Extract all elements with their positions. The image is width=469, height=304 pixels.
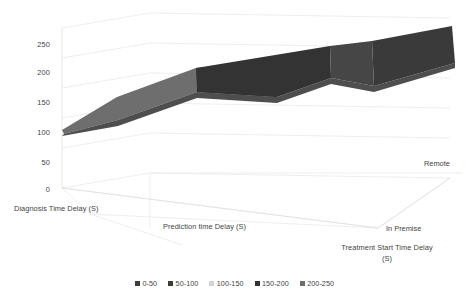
axis-title-diagnosis: Diagnosis Time Delay (S)	[14, 204, 99, 213]
legend-label: 200-250	[307, 279, 334, 288]
legend-swatch-icon	[300, 281, 305, 286]
legend-swatch-icon	[135, 281, 140, 286]
y-tick-150: 150	[22, 98, 50, 107]
legend-label: 50-100	[176, 279, 199, 288]
floor-gridlines	[62, 173, 462, 245]
y-tick-0: 0	[22, 185, 50, 194]
axis-title-treatment: Treatment Start Time Delay (S)	[327, 242, 447, 265]
y-tick-250: 250	[22, 40, 50, 49]
legend-item-200-250[interactable]: 200-250	[300, 279, 334, 288]
legend-item-100-150[interactable]: 100-150	[209, 279, 243, 288]
y-tick-100: 100	[22, 128, 50, 137]
legend-item-150-200[interactable]: 150-200	[255, 279, 289, 288]
series-label-in-premise: In Premise	[386, 224, 421, 233]
axis-title-treatment-line1: Treatment Start Time Delay	[341, 243, 432, 252]
axis-title-prediction: Prediction time Delay (S)	[163, 222, 246, 231]
legend-swatch-icon	[255, 281, 260, 286]
series-label-remote: Remote	[424, 159, 450, 168]
axis-title-treatment-line2: (S)	[382, 254, 392, 263]
floor-edges	[62, 178, 450, 228]
legend-item-0-50[interactable]: 0-50	[135, 279, 157, 288]
surface-chart: 250 200 150 100 50 0 Diagnosis Time Dela…	[0, 0, 469, 304]
y-tick-50: 50	[22, 158, 50, 167]
legend-label: 0-50	[143, 279, 158, 288]
legend-label: 150-200	[262, 279, 289, 288]
y-tick-200: 200	[22, 68, 50, 77]
legend-label: 100-150	[217, 279, 244, 288]
chart-legend: 0-50 50-100 100-150 150-200 200-250	[0, 279, 469, 288]
legend-swatch-icon	[209, 281, 214, 286]
legend-swatch-icon	[168, 281, 173, 286]
legend-item-50-100[interactable]: 50-100	[168, 279, 198, 288]
surface-ribbon	[62, 26, 455, 136]
